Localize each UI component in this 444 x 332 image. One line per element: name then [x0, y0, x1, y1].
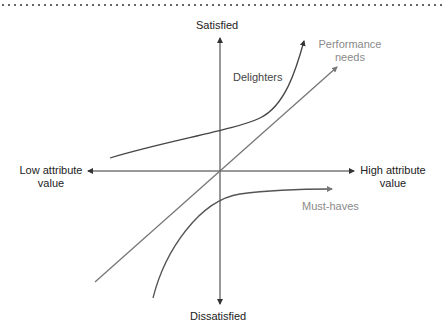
performance-line1: Performance	[316, 38, 384, 51]
performance-label: Performance needs	[316, 38, 384, 64]
high-attribute-label: High attribute value	[356, 164, 430, 190]
musthaves-label: Must-haves	[302, 200, 359, 213]
high-attribute-line2: value	[356, 177, 430, 190]
performance-line2: needs	[316, 51, 384, 64]
low-attribute-line1: Low attribute	[18, 164, 84, 177]
dissatisfied-label: Dissatisfied	[190, 310, 246, 323]
low-attribute-label: Low attribute value	[18, 164, 84, 190]
high-attribute-line1: High attribute	[356, 164, 430, 177]
low-attribute-line2: value	[18, 177, 84, 190]
delighters-curve	[110, 41, 304, 158]
satisfied-label: Satisfied	[196, 19, 238, 32]
delighters-label: Delighters	[233, 71, 283, 84]
performance-line	[95, 67, 337, 282]
